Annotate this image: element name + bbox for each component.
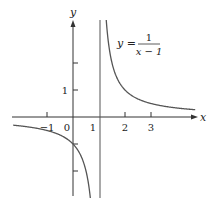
x-tick-label: 1 <box>90 122 96 133</box>
y-tick-label: 1 <box>62 85 68 96</box>
x-tick-labels: −10123 <box>40 122 155 133</box>
x-tick-label: 3 <box>148 122 154 133</box>
x-tick-label: 2 <box>122 122 128 133</box>
equation-denominator: x − 1 <box>136 46 163 57</box>
equation-numerator: 1 <box>146 32 152 43</box>
x-tick-label: 0 <box>64 122 70 133</box>
y-axis-arrow-icon <box>71 20 76 27</box>
curve-left-branch <box>13 125 93 206</box>
equation-lhs: y = <box>116 37 136 50</box>
equation-annotation: y = 1 x − 1 <box>116 32 162 57</box>
x-axis-label: x <box>200 111 207 124</box>
x-tick-label: −1 <box>40 122 55 133</box>
x-axis-arrow-icon <box>191 115 198 120</box>
curve-right-branch <box>106 17 195 110</box>
y-tick-labels: 1 <box>62 85 68 96</box>
function-graph: x y −10123 1 y = 1 x − 1 <box>0 0 212 206</box>
y-axis-label: y <box>69 6 77 19</box>
axes <box>12 24 194 196</box>
